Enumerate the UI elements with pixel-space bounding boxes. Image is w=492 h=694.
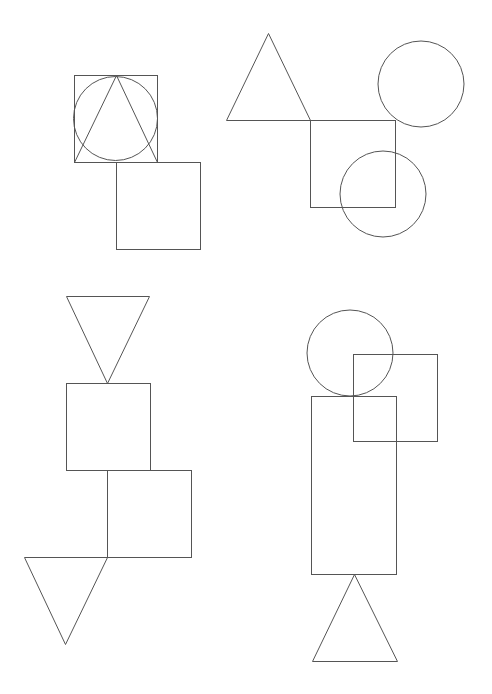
square-d (67, 384, 151, 471)
shapes-diagram (0, 0, 492, 694)
square-c (311, 121, 396, 208)
group-top-left (74, 76, 201, 250)
square-f (354, 355, 438, 442)
circle-d (307, 310, 393, 396)
triangle-b (227, 34, 311, 121)
square-e (108, 471, 192, 558)
triangle-inverted-a (67, 297, 150, 384)
group-bottom-right (307, 310, 438, 662)
triangle-inverted-b (25, 558, 108, 645)
circle-a (74, 77, 158, 161)
triangle-c (313, 575, 398, 662)
circle-c (340, 151, 426, 237)
group-bottom-left (25, 297, 192, 645)
group-top-right (227, 34, 465, 238)
diagram-canvas (0, 0, 492, 694)
circle-b (378, 41, 464, 127)
square-b (117, 163, 201, 250)
